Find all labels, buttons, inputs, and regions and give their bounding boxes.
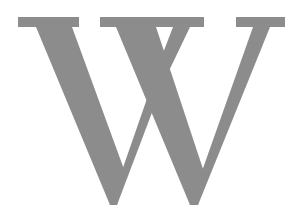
left-thick-stroke bbox=[36, 27, 125, 205]
middle-serif bbox=[100, 17, 204, 27]
w-letter-logo: W bbox=[0, 0, 304, 222]
middle-thick-stroke bbox=[116, 27, 204, 205]
left-serif bbox=[18, 17, 79, 27]
right-thin-stroke bbox=[190, 27, 270, 205]
w-glyph-icon bbox=[0, 0, 304, 222]
right-serif bbox=[236, 17, 285, 27]
left-thin-stroke bbox=[110, 90, 156, 205]
